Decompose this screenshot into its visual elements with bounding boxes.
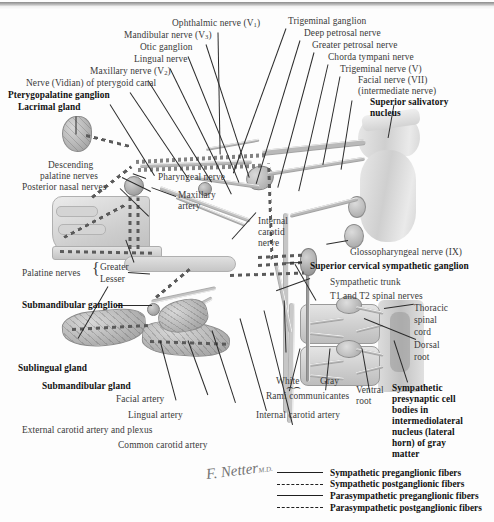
legend-label-1: Sympathetic postganglionic fibers	[330, 479, 464, 489]
label-ventral-root-l1: Ventral	[356, 385, 384, 396]
legend-row-3: Parasympathetic postganglionic fibers	[277, 502, 482, 514]
fiber-type-legend: Sympathetic preganglionic fibersSympathe…	[277, 467, 482, 513]
label-sublingual-gland: Sublingual gland	[18, 363, 87, 374]
label-rami-communicantes: Rami communicantes	[266, 391, 349, 402]
label-maxillary-artery-l1: Maxillary	[178, 190, 216, 201]
label-sympathetic-trunk: Sympathetic trunk	[330, 277, 401, 288]
label-descending-palatine-l1: Descending	[48, 160, 93, 171]
artist-signature: F. NetterM.D.	[205, 458, 273, 483]
label-dorsal-root-l2: root	[414, 352, 430, 363]
label-palatine-nerves: Palatine nerves	[22, 268, 81, 279]
label-superior-cervical-sympathetic-ganglion: Superior cervical sympathetic ganglion	[310, 261, 469, 272]
legend-line-dashed-icon	[277, 484, 323, 485]
netter-plate-autonomic-head: Ophthalmic nerve (V1) Mandibular nerve (…	[0, 0, 494, 522]
label-deep-petrosal-nerve: Deep petrosal nerve	[304, 28, 381, 39]
legend-label-3: Parasympathetic postganglionic fibers	[330, 503, 482, 513]
label-facial-artery: Facial artery	[116, 394, 164, 405]
label-presynaptic-l5: nucleus (lateral	[392, 427, 455, 438]
label-mandibular-nerve: Mandibular nerve (V3)	[124, 30, 212, 43]
scan-band-top-fade	[0, 6, 494, 9]
label-greater: Greater	[100, 262, 129, 273]
fiber-lacrimal-branch	[86, 134, 131, 148]
label-thoracic-spinal-cord-l1: Thoracic	[414, 303, 448, 314]
label-lacrimal-gland: Lacrimal gland	[18, 102, 81, 113]
label-pharyngeal-nerve: Pharyngeal nerve	[158, 172, 225, 183]
label-external-carotid-artery: External carotid artery and plexus	[22, 425, 152, 436]
fiber-palatine-greater	[129, 198, 132, 252]
label-glossopharyngeal-nerve: Glossopharyngeal nerve (IX)	[350, 247, 462, 258]
leader-deep-petrosal	[256, 40, 301, 184]
label-descending-palatine-l2: palatine nerves	[40, 171, 98, 182]
leader-chorda-tympani	[298, 64, 328, 191]
fiber-carotid-plexus-external	[230, 271, 304, 277]
glossopharyngeal-ganglion	[344, 224, 364, 248]
legend-label-0: Sympathetic preganglionic fibers	[330, 468, 461, 478]
ophthalmic-nerve-v1	[206, 139, 260, 151]
legend-line-solid-icon	[277, 495, 323, 496]
legend-line-solid-icon	[277, 472, 323, 473]
label-greater-petrosal-nerve: Greater petrosal nerve	[312, 40, 398, 51]
label-ophthalmic-nerve: Ophthalmic nerve (V1)	[172, 18, 260, 31]
label-presynaptic-l7: matter	[392, 449, 419, 460]
label-gray-ramus: Gray	[320, 376, 339, 387]
nasal-concha	[56, 206, 98, 217]
label-presynaptic-l4: intermediolateral	[392, 416, 463, 427]
label-facial-nerve: Facial nerve (VII)	[358, 75, 427, 86]
trigeminal-nerve-trunk	[262, 139, 366, 156]
label-superior-salivatory-nucleus-l2: nucleus	[370, 108, 401, 119]
label-t1-t2-spinal-nerves: T1 and T2 spinal nerves	[330, 291, 423, 302]
label-presynaptic-l3: bodies in	[392, 405, 428, 416]
label-internal-carotid-nerve-l3: nerve	[258, 238, 279, 249]
label-ventral-root-l2: root	[356, 396, 372, 407]
legend-row-2: Parasympathetic preganglionic fibers	[277, 490, 482, 502]
palatine-brace: {	[92, 262, 100, 275]
label-superior-salivatory-nucleus-l1: Superior salivatory	[370, 97, 448, 108]
tongue-floor	[124, 256, 236, 272]
leader-lacrimal	[76, 117, 77, 135]
label-vidian-nerve: Nerve (Vidian) of pterygoid canal	[26, 78, 156, 89]
label-chorda-tympani-nerve: Chorda tympani nerve	[328, 52, 414, 63]
label-thoracic-spinal-cord-l3: cord	[414, 327, 431, 338]
label-pterygopalatine-ganglion: Pterygopalatine ganglion	[8, 90, 110, 101]
label-internal-carotid-nerve-l1: Internal	[258, 216, 288, 227]
label-intermediate-nerve: (intermediate nerve)	[358, 86, 436, 97]
label-presynaptic-l1: Sympathetic	[392, 383, 443, 394]
label-presynaptic-l2: presynaptic cell	[392, 394, 456, 405]
label-presynaptic-l6: horn) of gray	[392, 438, 446, 449]
label-maxillary-nerve: Maxillary nerve (V2)	[90, 66, 171, 79]
label-internal-carotid-artery: Internal carotid artery	[256, 410, 340, 421]
label-lingual-artery: Lingual artery	[128, 410, 183, 421]
legend-row-1: Sympathetic postganglionic fibers	[277, 479, 482, 491]
label-common-carotid-artery: Common carotid artery	[118, 440, 208, 451]
legend-label-2: Parasympathetic preganglionic fibers	[330, 491, 479, 501]
label-internal-carotid-nerve-l2: carotid	[258, 227, 285, 238]
leader-trigeminal-nerve	[322, 76, 340, 165]
label-submandibular-gland: Submandibular gland	[42, 381, 131, 392]
leader-pterygopalatine	[110, 104, 155, 176]
label-posterior-nasal-nerves: Posterior nasal nerves	[22, 182, 106, 193]
label-lingual-nerve: Lingual nerve	[134, 54, 188, 65]
brainstem-medulla	[360, 150, 416, 242]
legend-line-dashed-icon	[277, 507, 323, 508]
label-otic-ganglion: Otic ganglion	[140, 42, 193, 53]
label-dorsal-root-l1: Dorsal	[414, 340, 440, 351]
fiber-carotid-to-ganglion-2	[258, 253, 306, 259]
label-lesser: Lesser	[100, 274, 125, 285]
leader-external-carotid	[240, 318, 267, 411]
label-trigeminal-ganglion: Trigeminal ganglion	[288, 16, 366, 27]
label-submandibular-ganglion: Submandibular ganglion	[22, 300, 123, 311]
label-trigeminal-nerve: Trigeminal nerve (V)	[340, 64, 422, 75]
legend-row-0: Sympathetic preganglionic fibers	[277, 467, 482, 479]
leader-lesser-palatine	[128, 272, 150, 275]
label-thoracic-spinal-cord-l2: spinal	[414, 315, 437, 326]
label-maxillary-artery-l2: artery	[178, 201, 200, 212]
